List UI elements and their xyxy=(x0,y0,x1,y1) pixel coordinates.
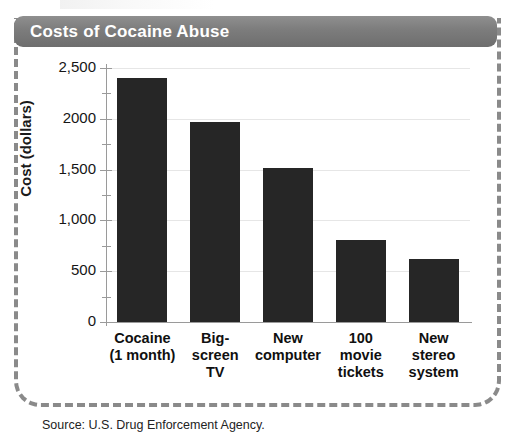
bar xyxy=(336,240,386,322)
y-tick-major xyxy=(100,271,112,272)
y-tick-minor xyxy=(102,93,111,94)
x-tick-label: New stereo system xyxy=(393,330,474,381)
source-note: Source: U.S. Drug Enforcement Agency. xyxy=(42,418,265,432)
y-tick-minor xyxy=(102,195,111,196)
y-tick-major xyxy=(100,322,112,323)
y-axis-title: Cost (dollars) xyxy=(17,64,34,234)
gridline xyxy=(106,68,470,69)
x-tick-label: 100 movie tickets xyxy=(320,330,401,381)
bar xyxy=(409,259,459,322)
y-tick-minor xyxy=(102,246,111,247)
y-tick-minor xyxy=(102,144,111,145)
bar xyxy=(190,122,240,322)
plot-box xyxy=(106,68,470,322)
x-tick-label: Big- screen TV xyxy=(175,330,256,381)
plot-area: Cost (dollars) 05001,0001,50020002,500 C… xyxy=(0,0,509,443)
y-tick-minor xyxy=(102,297,111,298)
x-tick-label: Cocaine (1 month) xyxy=(102,330,183,364)
bar xyxy=(117,78,167,322)
x-axis-line xyxy=(100,322,472,323)
chart-figure: Costs of Cocaine Abuse Cost (dollars) 05… xyxy=(0,0,509,443)
y-tick-major xyxy=(100,119,112,120)
y-tick-major xyxy=(100,220,112,221)
y-tick-major xyxy=(100,68,112,69)
bar xyxy=(263,168,313,322)
y-tick-major xyxy=(100,170,112,171)
x-tick-label: New computer xyxy=(248,330,329,364)
